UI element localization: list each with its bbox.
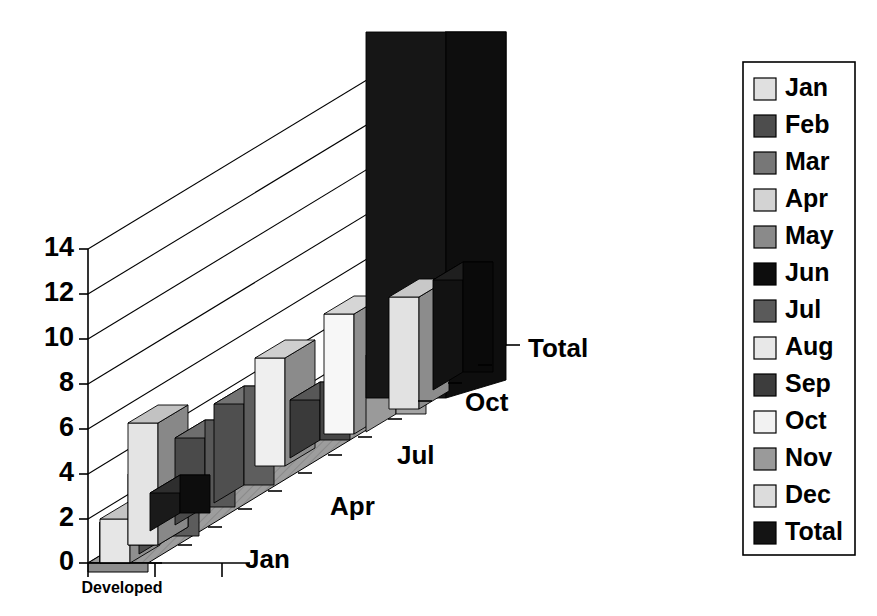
legend-label-oct: Oct bbox=[785, 406, 827, 434]
x-category-label-developed: Developed bbox=[82, 579, 163, 596]
legend-label-nov: Nov bbox=[785, 443, 832, 471]
y-axis: 14 12 10 8 6 4 2 0 bbox=[44, 232, 88, 576]
legend-label-jun: Jun bbox=[785, 258, 829, 286]
legend-label-mar: Mar bbox=[785, 147, 830, 175]
legend-swatch-jun bbox=[754, 263, 776, 285]
legend-label-aug: Aug bbox=[785, 332, 834, 360]
legend-swatch-apr bbox=[754, 189, 776, 211]
chart-page: 14 12 10 8 6 4 2 0 bbox=[0, 0, 877, 616]
legend-swatch-total bbox=[754, 522, 776, 544]
legend-label-feb: Feb bbox=[785, 110, 829, 138]
legend-label-may: May bbox=[785, 221, 834, 249]
legend-swatch-jan bbox=[754, 78, 776, 100]
y-tick-label-14: 14 bbox=[44, 232, 74, 262]
legend-swatch-jul bbox=[754, 300, 776, 322]
y-tick-label-0: 0 bbox=[59, 546, 74, 576]
depth-label-jan: Jan bbox=[245, 544, 290, 574]
legend-label-total: Total bbox=[785, 517, 843, 545]
legend-swatch-mar bbox=[754, 152, 776, 174]
y-tick-label-2: 2 bbox=[59, 502, 74, 532]
y-tick-label-10: 10 bbox=[44, 322, 74, 352]
legend-swatch-nov bbox=[754, 448, 776, 470]
legend-swatch-oct bbox=[754, 411, 776, 433]
y-tick-label-8: 8 bbox=[59, 367, 74, 397]
legend-label-jul: Jul bbox=[785, 295, 821, 323]
legend-label-jan: Jan bbox=[785, 73, 828, 101]
legend-swatch-dec bbox=[754, 485, 776, 507]
legend-label-dec: Dec bbox=[785, 480, 831, 508]
y-tick-label-4: 4 bbox=[59, 457, 74, 487]
legend-swatch-may bbox=[754, 226, 776, 248]
column-chart-3d: 14 12 10 8 6 4 2 0 bbox=[0, 0, 877, 616]
bar-total-front bbox=[433, 262, 493, 390]
depth-label-total: Total bbox=[528, 333, 588, 363]
legend[interactable]: Jan Feb Mar Apr May Jun bbox=[743, 62, 855, 555]
depth-label-apr: Apr bbox=[330, 491, 375, 521]
depth-label-oct: Oct bbox=[465, 387, 509, 417]
legend-swatch-feb bbox=[754, 115, 776, 137]
y-tick-label-12: 12 bbox=[44, 277, 74, 307]
legend-swatch-sep bbox=[754, 374, 776, 396]
legend-label-sep: Sep bbox=[785, 369, 831, 397]
depth-label-jul: Jul bbox=[397, 440, 435, 470]
legend-swatch-aug bbox=[754, 337, 776, 359]
legend-label-apr: Apr bbox=[785, 184, 828, 212]
y-tick-label-6: 6 bbox=[59, 412, 74, 442]
